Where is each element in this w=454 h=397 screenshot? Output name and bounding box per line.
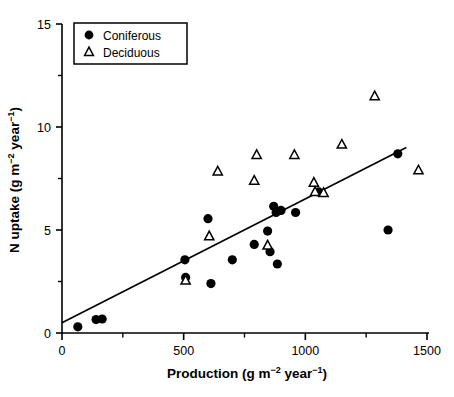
data-point-coniferous [203, 214, 212, 223]
data-point-coniferous [206, 279, 215, 288]
x-tick-label: 1000 [291, 344, 319, 358]
x-tick-label: 0 [59, 344, 66, 358]
series-deciduous [181, 91, 423, 284]
series-coniferous [73, 149, 402, 331]
data-point-deciduous [250, 176, 259, 185]
data-point-deciduous [309, 178, 318, 187]
legend-label: Deciduous [103, 46, 160, 60]
y-tick-label: 0 [44, 327, 51, 341]
data-point-coniferous [263, 226, 272, 235]
data-point-deciduous [337, 140, 346, 149]
data-point-coniferous [276, 206, 285, 215]
x-axis-title: Production (g m−2 year−1) [167, 365, 327, 381]
data-point-coniferous [250, 240, 259, 249]
data-point-coniferous [291, 208, 300, 217]
data-point-deciduous [213, 166, 222, 175]
data-point-coniferous [228, 255, 237, 264]
y-tick-label: 15 [37, 18, 51, 32]
x-tick-label: 1500 [413, 344, 441, 358]
regression-line [62, 148, 406, 323]
data-point-deciduous [290, 150, 299, 159]
x-tick-label: 500 [173, 344, 194, 358]
scatter-plot: 051015050010001500Production (g m−2 year… [0, 0, 454, 397]
data-point-deciduous [370, 91, 379, 100]
chart-figure: 051015050010001500Production (g m−2 year… [0, 0, 454, 397]
data-point-coniferous [393, 149, 402, 158]
data-point-deciduous [205, 231, 214, 240]
data-point-coniferous [180, 255, 189, 264]
y-tick-label: 5 [44, 224, 51, 238]
data-point-deciduous [252, 150, 261, 159]
y-tick-label: 10 [37, 121, 51, 135]
data-point-deciduous [414, 165, 423, 174]
data-point-coniferous [98, 314, 107, 323]
legend-marker-filled-circle-icon [85, 31, 94, 40]
data-point-coniferous [273, 259, 282, 268]
data-point-coniferous [383, 225, 392, 234]
data-point-deciduous [263, 240, 272, 249]
legend-label: Coniferous [103, 29, 161, 43]
data-point-coniferous [73, 322, 82, 331]
y-axis-title: N uptake (g m−2 year−1) [6, 107, 22, 253]
